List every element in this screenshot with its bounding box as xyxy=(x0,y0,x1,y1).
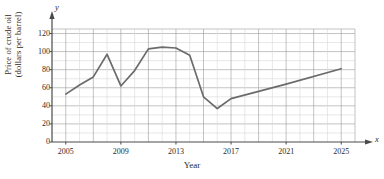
plot-area xyxy=(0,0,384,179)
crude-oil-price-line-chart: Price of crude oil (dollars per barrel) … xyxy=(0,0,384,179)
